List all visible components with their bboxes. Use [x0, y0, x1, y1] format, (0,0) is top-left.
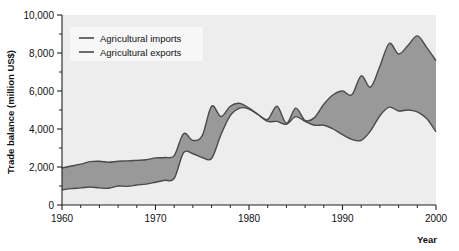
legend-label-exports: Agricultural exports — [100, 47, 182, 58]
y-tick-label: 0 — [48, 200, 54, 211]
y-tick-label: 6,000 — [29, 86, 54, 97]
y-axis-title: Trade balance (million US$) — [5, 50, 16, 174]
y-tick-label: 4,000 — [29, 124, 54, 135]
x-tick-label: 1990 — [331, 213, 354, 224]
x-tick-label: 1970 — [144, 213, 167, 224]
y-tick-label: 10,000 — [23, 10, 54, 21]
x-axis-title: Year — [417, 234, 437, 245]
legend-label-imports: Agricultural imports — [100, 33, 182, 44]
y-tick-label: 8,000 — [29, 48, 54, 59]
y-tick-label: 2,000 — [29, 162, 54, 173]
x-tick-label: 1960 — [51, 213, 74, 224]
x-tick-label: 1980 — [238, 213, 261, 224]
trade-balance-area-chart: 02,0004,0006,0008,00010,000 196019701980… — [0, 0, 459, 251]
chart-legend: Agricultural imports Agricultural export… — [70, 27, 203, 61]
x-tick-label: 2000 — [425, 213, 448, 224]
chart-figure: 02,0004,0006,0008,00010,000 196019701980… — [0, 0, 459, 251]
